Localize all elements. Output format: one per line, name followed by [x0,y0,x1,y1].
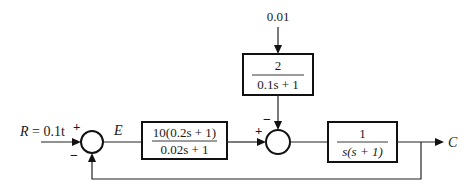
disturbance-arrow-2-icon [274,121,282,130]
plus-sign-1: + [73,119,80,134]
plant-denominator: s(s + 1) [342,144,383,159]
input-symbol: R [19,124,29,139]
plant-numerator: 1 [359,126,366,141]
error-label: E [113,123,123,138]
controller-denominator: 0.02s + 1 [160,142,208,157]
disturbance-filter-denominator: 0.1s + 1 [257,77,299,92]
feedback-arrow-icon [88,153,96,162]
minus-sign-1: − [70,148,78,163]
input-label: R = 0.1t [19,124,65,139]
junction2-arrow-icon [257,138,266,146]
block-diagram: R = 0.1t + − E 10(0.2s + 1) 0.02s + 1 0.… [0,0,474,190]
controller-numerator: 10(0.2s + 1) [153,125,216,140]
disturbance-label: 0.01 [267,9,290,24]
disturbance-summing-junction [266,130,290,154]
error-summing-junction [81,131,103,153]
disturbance-filter-numerator: 2 [275,58,282,73]
output-arrow-icon [435,138,444,146]
disturbance-arrow-icon [274,45,282,54]
input-expr: 0.1t [43,124,65,139]
minus-sign-2: − [263,112,271,127]
input-arrow-icon [72,138,81,146]
input-equals: = [32,124,43,139]
plus-sign-2: + [255,123,262,138]
output-label: C [448,135,458,150]
